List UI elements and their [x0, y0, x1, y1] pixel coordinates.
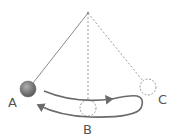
pendulum-diagram: [0, 0, 176, 139]
label-b: B: [83, 123, 92, 136]
forward-arrow: [44, 91, 112, 100]
label-c: C: [158, 93, 167, 106]
label-a: A: [8, 96, 17, 109]
pendulum-string: [33, 13, 88, 83]
return-arrow: [38, 96, 142, 117]
ghost-ball-c: [140, 79, 156, 95]
dashed-string-c: [88, 13, 143, 81]
pendulum-ball-a: [20, 81, 36, 97]
ghost-ball-b: [80, 100, 96, 116]
